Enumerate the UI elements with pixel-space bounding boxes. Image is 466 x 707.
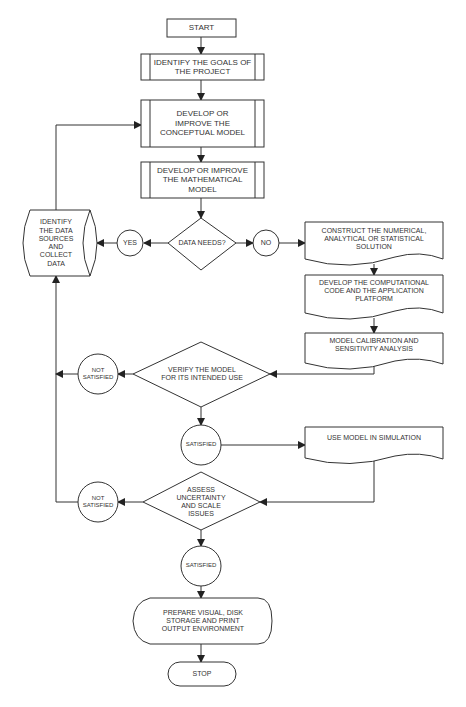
stop-label: STOP [168, 662, 236, 686]
assess-label: ASSESS UNCERTAINTY AND SCALE ISSUES [160, 480, 242, 524]
goals-label: IDENTIFY THE GOALS OF THE PROJECT [150, 54, 255, 80]
satisfied-label-1: SATISFIED [181, 439, 221, 451]
prepare-label: PREPARE VISUAL, DISK STORAGE AND PRINT O… [140, 598, 266, 644]
data-needs-label: DATA NEEDS? [168, 233, 236, 253]
simulation-label: USE MODEL IN SIMULATION [305, 427, 443, 449]
construct-label: CONSTRUCT THE NUMERICAL, ANALYTICAL OR S… [305, 222, 443, 256]
mathematical-label: DEVELOP OR IMPROVE THE MATHEMATICAL MODE… [150, 162, 255, 198]
computational-label: DEVELOP THE COMPUTATIONAL CODE AND THE A… [305, 275, 443, 307]
satisfied-label-2: SATISFIED [181, 560, 221, 572]
calibration-label: MODEL CALIBRATION AND SENSITIVITY ANALYS… [305, 333, 443, 357]
not-satisfied-label-2: NOT SATISFIED [78, 492, 118, 512]
edge-simulation-assess [260, 460, 374, 502]
not-satisfied-label-1: NOT SATISFIED [78, 364, 118, 384]
conceptual-label: DEVELOP OR IMPROVE THE CONCEPTUAL MODEL [150, 100, 255, 147]
start-label: START [167, 19, 236, 37]
verify-label: VERIFY THE MODEL FOR ITS INTENDED USE [140, 362, 264, 386]
data-sources-label: IDENTIFY THE DATA SOURCES AND COLLECT DA… [22, 210, 90, 276]
edge-datasources-conceptual [56, 125, 141, 210]
no-label: NO [253, 236, 279, 250]
edge-notsatisfied2-datasources [56, 276, 78, 502]
yes-label: YES [117, 236, 143, 250]
